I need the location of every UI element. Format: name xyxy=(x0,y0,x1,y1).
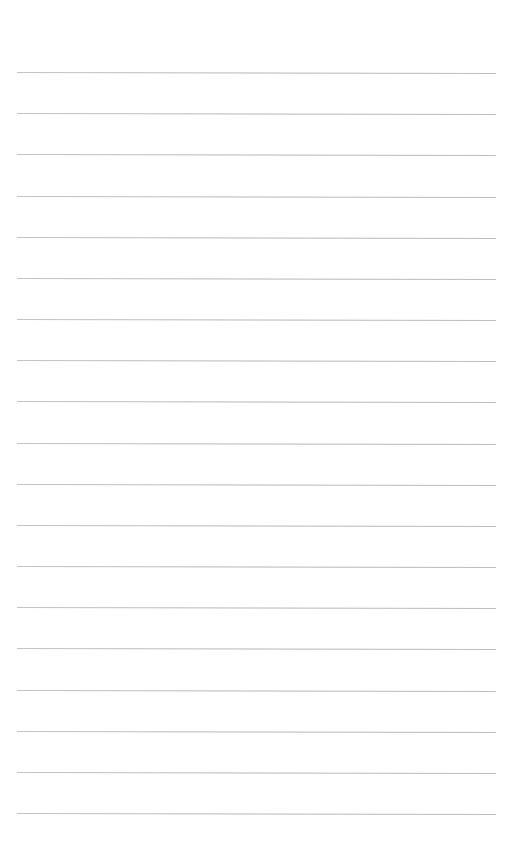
ruled-line xyxy=(17,690,496,692)
ruled-line xyxy=(17,731,496,733)
ruled-line xyxy=(17,648,496,650)
ruled-line xyxy=(17,319,496,321)
ruled-line xyxy=(17,566,496,568)
ruled-line xyxy=(17,443,496,445)
ruled-line xyxy=(17,813,496,815)
ruled-line xyxy=(17,772,496,774)
ruled-line xyxy=(17,484,496,486)
ruled-line xyxy=(17,72,496,74)
ruled-line xyxy=(17,237,496,239)
lined-paper-page xyxy=(0,0,531,850)
ruled-line xyxy=(17,360,496,362)
ruled-line xyxy=(17,278,496,280)
ruled-line xyxy=(17,607,496,609)
ruled-line xyxy=(17,154,496,156)
ruled-line xyxy=(17,113,496,115)
ruled-line xyxy=(17,196,496,198)
ruled-line xyxy=(17,401,496,403)
ruled-line xyxy=(17,525,496,527)
